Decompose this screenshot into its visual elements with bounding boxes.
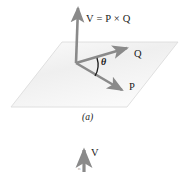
label-bottom-vector-v: V (91, 148, 99, 159)
label-angle-theta: θ (101, 57, 106, 67)
figure-caption-a: (a) (82, 113, 93, 123)
caption-text: (a) (82, 112, 93, 122)
label-vector-p: P (129, 82, 135, 93)
label-vector-q: Q (134, 49, 142, 60)
label-bottom-subscript: n (78, 166, 81, 171)
label-resultant-vector: V = P × Q (86, 14, 131, 25)
